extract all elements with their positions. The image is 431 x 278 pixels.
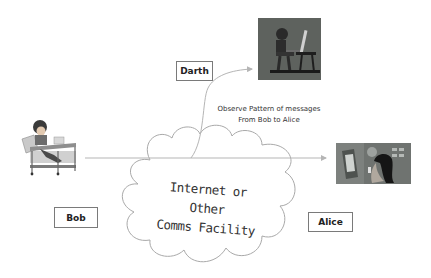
observe-caption-line2: From Bob to Alice (214, 115, 324, 126)
darth-label-text: Darth (180, 66, 209, 76)
bob-student-icon (18, 115, 80, 183)
alice-woman-icon (336, 143, 411, 184)
observe-caption: Observe Pattern of messages From Bob to … (214, 104, 324, 126)
bob-label-text: Bob (66, 213, 86, 223)
observe-caption-line1: Observe Pattern of messages (214, 104, 324, 115)
darth-label: Darth (176, 61, 213, 81)
alice-label-text: Alice (318, 217, 343, 227)
bob-label: Bob (54, 207, 98, 228)
darth-hacker-icon (258, 18, 321, 80)
network-label: Internet or Other Comms Facility (146, 176, 268, 241)
alice-label: Alice (308, 212, 353, 232)
